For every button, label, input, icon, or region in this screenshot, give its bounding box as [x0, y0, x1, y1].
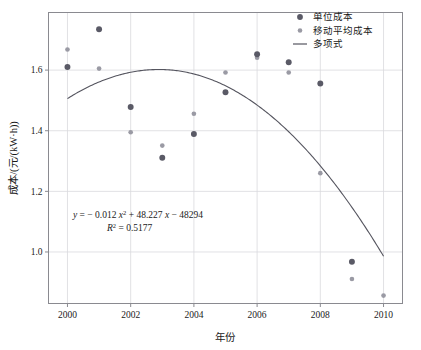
x-tick-label: 2004 — [184, 310, 203, 320]
equation-eq: = − 0.012 — [77, 210, 119, 220]
legend-marker — [298, 28, 303, 33]
data-point-moving-average — [381, 293, 386, 298]
x-tick-label: 2006 — [248, 310, 267, 320]
x-axis-title: 年份 — [215, 331, 236, 343]
cost-trend-scatter-chart: 200020022004200620082010 1.01.21.41.6 年份… — [0, 0, 421, 350]
chart-background — [0, 0, 421, 350]
legend-label: 单位成本 — [313, 11, 353, 22]
data-point-moving-average — [286, 70, 291, 75]
y-axis-title: 成本/(元/(kW·h)) — [7, 121, 20, 195]
data-point-moving-average — [192, 111, 197, 116]
data-point-unit-cost — [159, 155, 165, 161]
data-point-moving-average — [223, 70, 228, 75]
data-point-unit-cost — [286, 59, 292, 65]
data-point-unit-cost — [128, 104, 134, 110]
legend-label: 移动平均成本 — [313, 25, 373, 36]
data-point-moving-average — [350, 277, 355, 282]
y-tick-label: 1.4 — [31, 126, 43, 136]
chart-figure: 200020022004200620082010 1.01.21.41.6 年份… — [0, 0, 421, 350]
x-tick-label: 2002 — [121, 310, 140, 320]
data-point-unit-cost — [191, 131, 197, 137]
y-tick-label: 1.2 — [31, 187, 43, 197]
legend-label: 多项式 — [313, 38, 343, 49]
r-squared-value: = 0.5177 — [116, 223, 152, 233]
equation-line: y = − 0.012 x2 + 48.227 x − 48294 — [72, 209, 203, 220]
x-tick-label: 2010 — [374, 310, 393, 320]
data-point-unit-cost — [96, 26, 102, 32]
data-point-moving-average — [65, 47, 70, 52]
data-point-moving-average — [128, 130, 133, 135]
data-point-unit-cost — [64, 64, 70, 70]
x-tick-label: 2000 — [58, 310, 77, 320]
y-tick-label: 1.0 — [31, 247, 43, 257]
data-point-unit-cost — [223, 89, 229, 95]
equation-mid: + 48.227 — [126, 210, 165, 220]
data-point-unit-cost — [349, 259, 355, 265]
legend-marker — [297, 14, 303, 20]
data-point-unit-cost — [254, 51, 260, 57]
x-tick-label: 2008 — [311, 310, 330, 320]
data-point-moving-average — [318, 171, 323, 176]
data-point-moving-average — [97, 66, 102, 71]
y-tick-label: 1.6 — [31, 65, 43, 75]
data-point-moving-average — [160, 143, 165, 148]
equation-tail: − 48294 — [169, 210, 203, 220]
data-point-unit-cost — [317, 80, 323, 86]
